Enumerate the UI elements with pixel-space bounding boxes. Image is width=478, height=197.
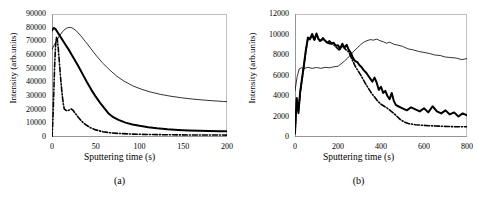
panel-a-plot-area: 0100002000030000400005000060000700008000… bbox=[52, 14, 227, 137]
panel-b-x-axis-label: Sputtering time (s) bbox=[239, 152, 478, 162]
panel-a-x-axis-label: Sputtering time (s) bbox=[0, 152, 239, 162]
panel-a-x-tick-label: 100 bbox=[120, 143, 160, 151]
panel-b-y-tick-label: 2000 bbox=[245, 113, 289, 121]
panel-a-y-tick-label: 40000 bbox=[2, 78, 46, 86]
panel-a-x-tick-label: 50 bbox=[76, 143, 116, 151]
panel-b-x-tick-label: 800 bbox=[447, 143, 478, 151]
panel-a-x-tick-label: 0 bbox=[32, 143, 72, 151]
panel-b-plot-svg bbox=[295, 14, 467, 137]
panel-a-y-tick-label: 60000 bbox=[2, 51, 46, 59]
panel-b-y-tick-label: 12000 bbox=[245, 10, 289, 18]
panel-b-series-thick-line bbox=[295, 33, 467, 132]
panel-b-y-tick-label: 8000 bbox=[245, 51, 289, 59]
panel-a-series-thick-line bbox=[52, 28, 227, 131]
panel-b-x-tick-label: 400 bbox=[361, 143, 401, 151]
panel-a-y-tick-label: 70000 bbox=[2, 37, 46, 45]
panel-b-x-tick-label: 200 bbox=[318, 143, 358, 151]
panel-a-caption: (a) bbox=[0, 175, 239, 186]
panel-a-y-tick-label: 30000 bbox=[2, 92, 46, 100]
panel-b-y-tick-label: 4000 bbox=[245, 92, 289, 100]
panel-a-y-tick-label: 50000 bbox=[2, 65, 46, 73]
panel-a-x-tick-label: 150 bbox=[163, 143, 203, 151]
panel-a-series-dash-dot-line bbox=[52, 37, 227, 137]
panel-b-plot-frame bbox=[296, 15, 467, 137]
panel-b-x-tick-label: 0 bbox=[275, 143, 315, 151]
panel-b-y-tick-label: 10000 bbox=[245, 31, 289, 39]
panel-b-y-tick-label: 6000 bbox=[245, 72, 289, 80]
panel-b-plot-area: 0200040006000800010000120000200400600800 bbox=[295, 14, 467, 137]
panel-a: Intensity (arb.units) 010000200003000040… bbox=[0, 0, 239, 197]
panel-a-y-tick-label: 10000 bbox=[2, 119, 46, 127]
panel-a-plot-svg bbox=[52, 14, 227, 137]
panel-b-y-tick-label: 0 bbox=[245, 133, 289, 141]
panel-a-y-tick-label: 90000 bbox=[2, 10, 46, 18]
panel-b-x-tick-label: 600 bbox=[404, 143, 444, 151]
panel-a-y-tick-label: 0 bbox=[2, 133, 46, 141]
panel-b-series-dash-dot-line bbox=[295, 35, 467, 134]
figure-container: Intensity (arb.units) 010000200003000040… bbox=[0, 0, 478, 197]
panel-a-y-tick-label: 80000 bbox=[2, 24, 46, 32]
panel-b-caption: (b) bbox=[239, 175, 478, 186]
panel-b-series-thin-line bbox=[295, 39, 467, 91]
panel-a-y-tick-label: 20000 bbox=[2, 106, 46, 114]
panel-b: Intensity (arb.units) 020004000600080001… bbox=[239, 0, 478, 197]
